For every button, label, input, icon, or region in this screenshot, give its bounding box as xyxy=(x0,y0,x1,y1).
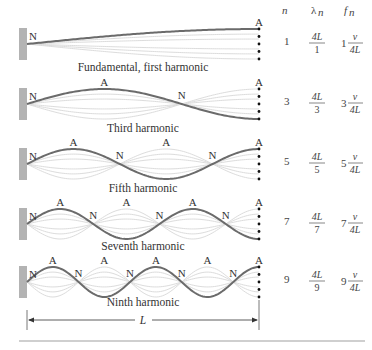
harmonic-number: 3 xyxy=(284,95,290,107)
free-end-dot xyxy=(258,148,261,151)
antinode-label: A xyxy=(100,76,108,88)
antinode-label: A xyxy=(152,254,160,266)
lambda-denominator: 5 xyxy=(315,164,320,175)
antinode-label: A xyxy=(255,254,263,266)
standing-wave-diagram: NAFundamental, first harmonic14L11v4LNAN… xyxy=(0,0,372,350)
node-label: N xyxy=(89,209,97,221)
node-label: N xyxy=(29,30,37,42)
harmonic-number: 1 xyxy=(284,35,290,47)
antinode-label: A xyxy=(162,136,170,148)
free-end-dot xyxy=(258,163,261,166)
free-end-dot xyxy=(258,288,261,291)
free-end-dot xyxy=(258,118,261,121)
free-end-dot xyxy=(258,110,261,113)
antinode-label: A xyxy=(100,254,108,266)
header-f-subscript: n xyxy=(349,6,355,18)
antinode-label: A xyxy=(255,76,263,88)
lambda-numerator: 4L xyxy=(312,31,323,42)
header-n: n xyxy=(282,4,288,16)
harmonic-caption: Third harmonic xyxy=(107,122,179,134)
frequency-coefficient: 1 xyxy=(341,37,347,49)
frequency-denominator: 4L xyxy=(350,164,361,175)
free-end-dot xyxy=(258,238,261,241)
free-end-dot xyxy=(258,155,261,158)
harmonic-row-1: NAFundamental, first harmonic14L11v4L xyxy=(19,16,363,74)
node-label: N xyxy=(229,267,237,279)
node-label: N xyxy=(116,149,124,161)
free-end-dot xyxy=(258,273,261,276)
frequency-numerator: v xyxy=(353,31,358,42)
antinode-label: A xyxy=(255,136,263,148)
frequency-denominator: 4L xyxy=(350,224,361,235)
harmonic-row-9: NANANANANANinth harmonic94L99v4L xyxy=(19,254,363,308)
frequency-denominator: 4L xyxy=(350,282,361,293)
harmonic-caption: Seventh harmonic xyxy=(101,240,184,252)
antinode-label: A xyxy=(255,16,263,28)
fixed-wall xyxy=(19,88,27,120)
node-label: N xyxy=(126,267,134,279)
frequency-coefficient: 5 xyxy=(341,157,347,169)
lambda-numerator: 4L xyxy=(312,151,323,162)
free-end-dot xyxy=(258,223,261,226)
node-label: N xyxy=(29,268,37,280)
frequency-numerator: v xyxy=(353,91,358,102)
free-end-dot xyxy=(258,50,261,53)
free-end-dot xyxy=(258,296,261,299)
antinode-label: A xyxy=(203,254,211,266)
free-end-dot xyxy=(258,170,261,173)
fixed-wall xyxy=(19,148,27,180)
free-end-dot xyxy=(258,103,261,106)
frequency-numerator: v xyxy=(353,211,358,222)
node-label: N xyxy=(156,209,164,221)
lambda-denominator: 3 xyxy=(315,104,320,115)
free-end-dot xyxy=(258,28,261,31)
frequency-coefficient: 7 xyxy=(341,217,347,229)
free-end-dot xyxy=(258,35,261,38)
node-label: N xyxy=(29,210,37,222)
free-end-dot xyxy=(258,95,261,98)
arrowhead-right-icon xyxy=(252,318,258,323)
header-lambda-subscript: n xyxy=(318,6,324,18)
lambda-denominator: 1 xyxy=(315,44,320,55)
antinode-label: A xyxy=(189,196,197,208)
lambda-numerator: 4L xyxy=(312,211,323,222)
frequency-coefficient: 9 xyxy=(341,275,347,287)
harmonic-row-7: NANANANASeventh harmonic74L77v4L xyxy=(19,196,363,252)
free-end-dot xyxy=(258,43,261,46)
free-end-dot xyxy=(258,215,261,218)
harmonic-row-3: NANAThird harmonic34L33v4L xyxy=(19,76,363,134)
free-end-dot xyxy=(258,178,261,181)
free-end-dot xyxy=(258,266,261,269)
lambda-denominator: 9 xyxy=(315,282,320,293)
fixed-wall xyxy=(19,28,27,60)
lambda-denominator: 7 xyxy=(315,224,320,235)
harmonic-row-5: NANANAFifth harmonic54L55v4L xyxy=(19,136,363,194)
lambda-numerator: 4L xyxy=(312,269,323,280)
node-label: N xyxy=(209,149,217,161)
node-label: N xyxy=(178,89,186,101)
antinode-label: A xyxy=(255,196,263,208)
node-label: N xyxy=(29,150,37,162)
free-end-dot xyxy=(258,88,261,91)
harmonic-number: 5 xyxy=(284,155,290,167)
harmonic-number: 9 xyxy=(284,273,290,285)
frequency-numerator: v xyxy=(353,151,358,162)
frequency-coefficient: 3 xyxy=(341,97,347,109)
lambda-numerator: 4L xyxy=(312,91,323,102)
antinode-label: A xyxy=(56,196,64,208)
node-label: N xyxy=(75,267,83,279)
node-label: N xyxy=(29,90,37,102)
harmonic-caption: Ninth harmonic xyxy=(107,296,180,308)
frequency-denominator: 4L xyxy=(350,44,361,55)
header-lambda: λ xyxy=(311,4,317,16)
fixed-wall xyxy=(19,208,27,240)
fixed-wall xyxy=(19,266,27,298)
harmonic-caption: Fundamental, first harmonic xyxy=(78,61,209,74)
node-label: N xyxy=(222,209,230,221)
antinode-label: A xyxy=(49,254,57,266)
free-end-dot xyxy=(258,281,261,284)
free-end-dot xyxy=(258,208,261,211)
frequency-numerator: v xyxy=(353,269,358,280)
frequency-denominator: 4L xyxy=(350,104,361,115)
antinode-label: A xyxy=(69,136,77,148)
